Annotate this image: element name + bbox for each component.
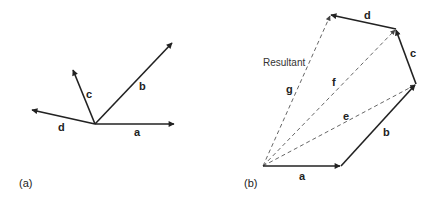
caption-a: (a) [19, 177, 32, 189]
label-a: a [299, 170, 306, 182]
vector-addition-diagram: a b c d (a) a b c d e f g Resultant (b) [0, 0, 437, 199]
label-d: d [58, 121, 65, 133]
label-b: b [383, 126, 390, 138]
label-b: b [139, 80, 146, 92]
label-c: c [86, 88, 92, 100]
label-a: a [134, 126, 141, 138]
caption-b: (b) [244, 177, 257, 189]
vector-g-resultant [263, 16, 330, 166]
label-d: d [364, 9, 371, 21]
label-f: f [332, 76, 336, 88]
label-c: c [410, 47, 416, 59]
resultant-label: Resultant [263, 57, 305, 68]
label-g: g [286, 83, 293, 95]
vector-b-arrow [341, 85, 415, 166]
panel-a: a b c d (a) [19, 43, 174, 189]
label-e: e [343, 110, 349, 122]
panel-b: a b c d e f g Resultant (b) [244, 9, 416, 189]
vector-b-arrow [95, 43, 172, 124]
vector-f-dashed [263, 30, 395, 166]
vector-e-dashed [263, 85, 415, 166]
